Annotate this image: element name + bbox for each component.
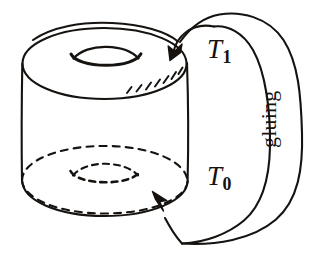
bottom-hole-lens-lower xyxy=(71,171,141,183)
T-zero-base: T xyxy=(207,161,222,191)
T-zero-label: T0 xyxy=(207,163,231,190)
top-sweep-arc xyxy=(33,23,178,42)
T-one-base: T xyxy=(207,34,222,64)
T-one-label: T1 xyxy=(207,36,231,63)
top-rim-hatching xyxy=(127,68,183,94)
gluing-band-outer-curve xyxy=(180,14,302,244)
cylinder-left-wall xyxy=(22,64,23,181)
top-hole-lens-lower xyxy=(71,54,141,66)
top-hole-lens-upper xyxy=(74,47,139,59)
T-one-subscript: 1 xyxy=(222,47,231,67)
bottom-hole-lens-upper xyxy=(73,164,138,176)
gluing-band-bottom-tail xyxy=(165,218,182,244)
cylinder-right-wall xyxy=(187,63,188,182)
T-zero-subscript: 0 xyxy=(222,174,231,194)
figure-canvas: T1 T0 gluing xyxy=(0,0,313,265)
gluing-label: gluing xyxy=(258,91,280,148)
cylinder-top-ellipse xyxy=(23,28,187,99)
